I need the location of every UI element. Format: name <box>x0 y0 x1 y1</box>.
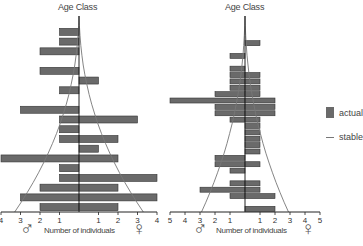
male-bar <box>60 126 80 133</box>
male-bar <box>230 79 245 84</box>
male-bar <box>215 92 245 97</box>
x-tick-label: 1 <box>228 216 233 225</box>
male-bar <box>170 98 245 103</box>
male-bar <box>40 204 79 211</box>
male-bar <box>215 104 245 109</box>
female-bar <box>79 204 118 211</box>
x-tick-label: 2 <box>116 216 121 225</box>
male-bar <box>60 174 80 181</box>
male-bar <box>215 111 245 116</box>
x-tick-label: 2 <box>273 216 278 225</box>
male-bar <box>40 48 79 55</box>
x-tick-label: 4 <box>155 216 160 225</box>
male-bar <box>21 106 80 113</box>
male-bar <box>60 38 80 45</box>
x-tick-label: 4 <box>0 216 4 225</box>
male-bar <box>60 165 80 172</box>
legend-actual: actual <box>326 107 363 118</box>
female-bar <box>245 187 260 192</box>
female-bar <box>79 194 157 201</box>
male-bar <box>230 181 245 186</box>
female-symbol-icon: ♀ <box>301 219 315 238</box>
male-bar <box>215 155 245 160</box>
male-bar <box>21 194 80 201</box>
x-tick-label: 3 <box>288 216 293 225</box>
female-bar <box>245 73 260 78</box>
female-bar <box>245 143 260 148</box>
female-bar <box>245 98 275 103</box>
female-bar <box>79 77 99 84</box>
male-bar <box>1 155 79 162</box>
female-bar <box>245 194 275 199</box>
female-bar <box>245 206 275 211</box>
male-symbol-icon: ♂ <box>20 219 34 238</box>
female-bar <box>79 145 99 152</box>
male-bar <box>60 135 80 142</box>
male-bar <box>230 168 245 173</box>
female-bar <box>245 149 260 154</box>
right-pyramid: 5432112345 <box>168 16 323 225</box>
male-bar <box>230 66 245 71</box>
male-bar <box>230 73 245 78</box>
x-tick-label: 2 <box>38 216 43 225</box>
legend-line-stable <box>326 137 334 138</box>
female-bar <box>79 174 157 181</box>
x-tick-label: 5 <box>318 216 323 225</box>
female-symbol-icon: ♀ <box>132 219 146 238</box>
left-pyramid: 43211234 <box>0 16 160 225</box>
legend-stable: stable <box>326 132 363 142</box>
female-bar <box>79 135 118 142</box>
legend-label-actual: actual <box>339 108 363 118</box>
x-tick-label: 4 <box>183 216 188 225</box>
female-bar <box>245 85 260 90</box>
x-tick-label: 1 <box>258 216 263 225</box>
right-x-axis-label: Number of individuals <box>216 226 287 235</box>
x-tick-label: 5 <box>168 216 173 225</box>
male-symbol-icon: ♂ <box>193 219 207 238</box>
male-bar <box>230 85 245 90</box>
female-bar <box>245 104 275 109</box>
female-bar <box>79 184 118 191</box>
x-tick-label: 2 <box>213 216 218 225</box>
female-bar <box>245 162 260 167</box>
female-bar <box>245 181 260 186</box>
male-bar <box>230 194 245 199</box>
female-bar <box>79 116 138 123</box>
female-bar <box>245 111 275 116</box>
legend-swatch-actual <box>326 107 334 118</box>
female-bar <box>245 41 260 46</box>
male-bar <box>60 28 80 35</box>
male-bar <box>40 184 79 191</box>
stable-curve-female <box>79 16 143 212</box>
female-bar <box>245 136 260 141</box>
legend-label-stable: stable <box>339 132 363 142</box>
male-bar <box>200 187 245 192</box>
x-tick-label: 1 <box>96 216 101 225</box>
female-bar <box>245 79 260 84</box>
female-bar <box>245 130 260 135</box>
x-tick-label: 1 <box>57 216 62 225</box>
left-x-axis-label: Number of individuals <box>44 226 115 235</box>
